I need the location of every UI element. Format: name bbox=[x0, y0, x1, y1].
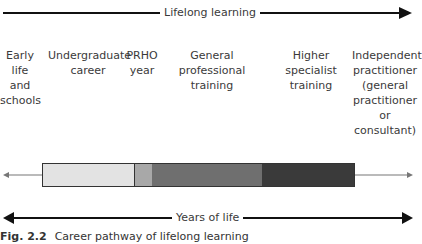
segment-higher-specialist bbox=[262, 164, 354, 186]
stage-label-undergraduate: Undergraduate career bbox=[48, 48, 128, 78]
stage-label-early-life: Early life and schools bbox=[0, 48, 40, 108]
stage-label-general-professional: General professional training bbox=[172, 48, 252, 93]
segment-prho bbox=[135, 164, 152, 186]
stage-label-prho: PRHO year bbox=[126, 48, 158, 78]
career-timeline-bar bbox=[42, 163, 355, 187]
lifelong-learning-arrowhead-icon bbox=[399, 7, 412, 19]
figure-number: Fig. 2.2 bbox=[0, 230, 47, 243]
timeline-left-arrowhead-icon bbox=[3, 172, 9, 178]
timeline-right-arrowhead-icon bbox=[407, 172, 413, 178]
years-of-life-right-arrowhead-icon bbox=[402, 212, 413, 224]
years-of-life-left-arrowhead-icon bbox=[3, 212, 14, 224]
segment-undergraduate bbox=[43, 164, 135, 186]
years-of-life-label: Years of life bbox=[172, 211, 243, 225]
stage-label-higher-specialist: Higher specialist training bbox=[276, 48, 346, 93]
figure-caption-text: Career pathway of lifelong learning bbox=[55, 230, 249, 243]
lifelong-learning-label: Lifelong learning bbox=[160, 6, 260, 20]
stage-label-independent-practitioner: Independent practitioner (general practi… bbox=[352, 48, 418, 138]
segment-general-professional bbox=[152, 164, 262, 186]
figure-caption: Fig. 2.2Career pathway of lifelong learn… bbox=[0, 230, 249, 244]
